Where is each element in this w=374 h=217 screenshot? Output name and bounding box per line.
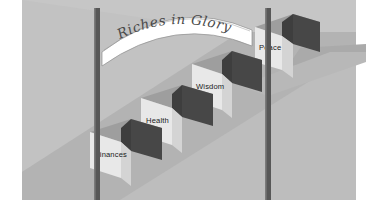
right-pole-front-highlight (265, 36, 267, 200)
left-pole-front-highlight (94, 118, 96, 200)
step-label-health: Health (146, 116, 169, 125)
step-label-wisdom: Wisdom (196, 82, 224, 91)
illustration-canvas: Riches in Glory Peace (0, 0, 374, 217)
staircase-illustration: Riches in Glory Peace (0, 0, 374, 217)
